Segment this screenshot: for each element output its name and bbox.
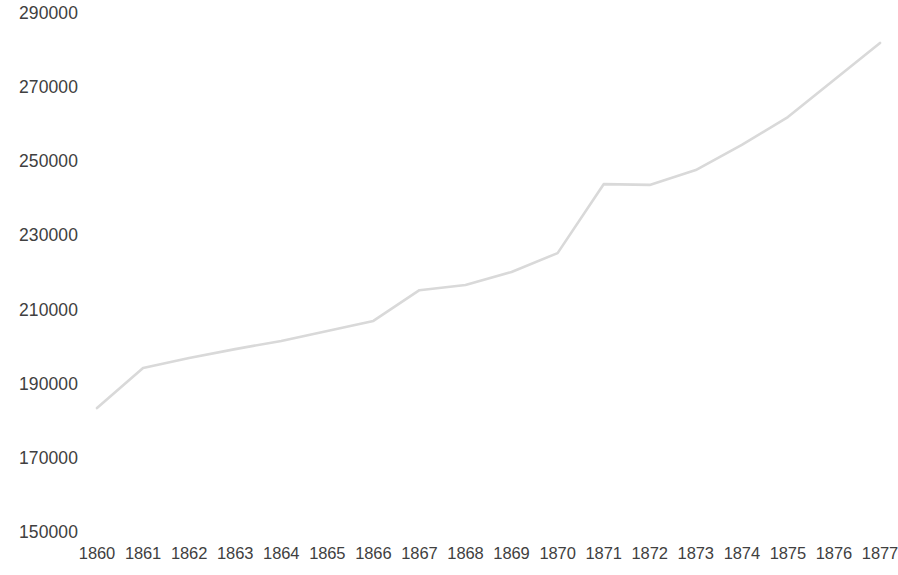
x-tick-label: 1860 bbox=[79, 545, 115, 562]
x-tick-label: 1862 bbox=[171, 545, 207, 562]
x-tick-label: 1877 bbox=[862, 545, 898, 562]
x-tick-label: 1861 bbox=[125, 545, 161, 562]
x-axis: 1860186118621863186418651866186718681869… bbox=[0, 0, 898, 575]
x-tick-label: 1865 bbox=[309, 545, 345, 562]
line-chart: 2900002700002500002300002100001900001700… bbox=[0, 0, 898, 575]
x-tick-label: 1876 bbox=[816, 545, 852, 562]
x-tick-label: 1868 bbox=[447, 545, 483, 562]
x-tick-label: 1874 bbox=[724, 545, 760, 562]
x-tick-label: 1869 bbox=[493, 545, 529, 562]
x-tick-label: 1870 bbox=[539, 545, 575, 562]
x-tick-label: 1864 bbox=[263, 545, 299, 562]
x-tick-label: 1867 bbox=[401, 545, 437, 562]
x-tick-label: 1871 bbox=[585, 545, 621, 562]
x-tick-label: 1863 bbox=[217, 545, 253, 562]
x-tick-label: 1873 bbox=[678, 545, 714, 562]
x-tick-label: 1866 bbox=[355, 545, 391, 562]
x-tick-label: 1872 bbox=[632, 545, 668, 562]
x-tick-label: 1875 bbox=[770, 545, 806, 562]
